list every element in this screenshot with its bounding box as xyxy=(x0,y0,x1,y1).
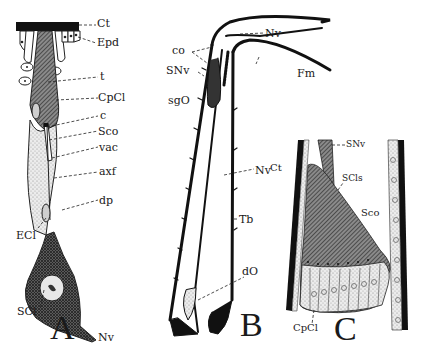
label-b-tibia: Tb xyxy=(239,214,253,225)
label-a-nerve: Nv xyxy=(98,332,114,343)
label-a-cap: c xyxy=(100,110,106,121)
panel-letter-a: A xyxy=(50,311,75,345)
label-a-sensory-cell: SCl xyxy=(17,306,36,317)
label-c-scolopale: Sco xyxy=(361,207,379,218)
label-b-sensory-nerve: SNv xyxy=(166,65,189,76)
panel-letter-c: C xyxy=(334,312,357,346)
label-a-epidermis: Epd xyxy=(97,37,119,48)
label-a-dendrite: dp xyxy=(99,195,113,206)
label-b-subgenual-organ: sgO xyxy=(168,95,190,106)
label-a-vacuole: vac xyxy=(99,142,118,153)
label-a-scolopale: Sco xyxy=(98,126,118,137)
label-a-axial-filament: axf xyxy=(99,166,116,177)
label-b-nerve-top: Nv xyxy=(265,28,281,39)
label-a-cap-cell: CpCl xyxy=(98,92,125,103)
label-b-nerve-mid: Nv xyxy=(255,165,271,176)
label-c-cuticle: Ct xyxy=(270,162,282,173)
label-c-sensory-nerve: SNv xyxy=(346,139,365,150)
label-c-sensory-cells: SCls xyxy=(342,173,363,184)
panel-letter-b: B xyxy=(240,308,263,342)
panel-c-drawing xyxy=(286,140,408,330)
label-a-cuticle: Ct xyxy=(97,18,110,29)
label-b-distal-organ: dO xyxy=(242,266,258,277)
label-c-cap-cells: CpCl xyxy=(293,322,318,333)
label-b-femur: Fm xyxy=(297,68,315,79)
label-a-tube: t xyxy=(100,71,104,82)
label-b-co: co xyxy=(172,45,185,56)
label-a-envelope-cell: ECl xyxy=(16,230,36,241)
panel-a-drawing xyxy=(16,22,96,342)
